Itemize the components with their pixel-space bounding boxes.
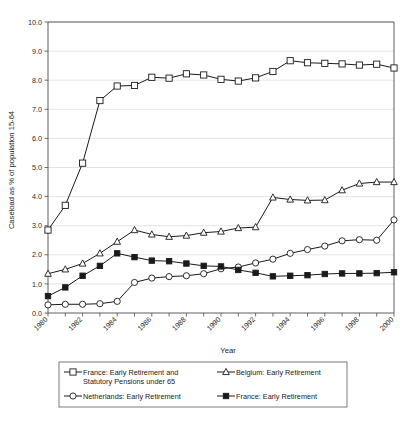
data-point-marker (391, 270, 396, 275)
data-point-marker (45, 302, 51, 308)
data-point-marker (223, 393, 228, 398)
data-point-marker (45, 227, 51, 233)
y-tick-label: 9.0 (32, 47, 42, 56)
data-point-marker (218, 76, 224, 82)
data-point-marker (357, 271, 362, 276)
legend-entry-france-er-statutory: France: Early Retirement and (83, 368, 178, 377)
data-point-marker (322, 243, 328, 249)
data-point-marker (304, 60, 310, 66)
y-tick-label: 6.0 (32, 134, 42, 143)
chart-legend: France: Early Retirement andStatutory Pe… (59, 362, 347, 407)
data-point-marker (80, 301, 86, 307)
legend-entry-france-er-statutory-line2: Statutory Pensions under 65 (83, 377, 175, 386)
data-point-marker (63, 285, 68, 290)
y-tick-label: 5.0 (32, 163, 42, 172)
data-point-marker (62, 301, 68, 307)
data-point-marker (132, 254, 137, 259)
data-point-marker (184, 261, 189, 266)
legend-entry-netherlands-er: Netherlands: Early Retirement (83, 392, 181, 401)
caption-strip (0, 417, 406, 425)
data-point-marker (149, 258, 154, 263)
data-point-marker (62, 202, 68, 208)
data-point-marker (253, 260, 259, 266)
legend-entry-belgium-er: Belgium: Early Retirement (236, 368, 321, 377)
data-point-marker (339, 271, 344, 276)
y-tick-label: 8.0 (32, 76, 42, 85)
data-point-marker (115, 251, 120, 256)
data-point-marker (391, 217, 397, 223)
data-point-marker (339, 238, 345, 244)
data-point-marker (201, 263, 206, 268)
data-point-marker (183, 273, 189, 279)
data-point-marker (201, 271, 207, 277)
data-point-marker (253, 75, 259, 81)
data-point-marker (287, 58, 293, 64)
data-point-marker (236, 267, 241, 272)
y-axis-title: Caseload as % of population 15-64 (7, 111, 16, 229)
data-point-marker (356, 237, 362, 243)
data-point-marker (80, 160, 86, 166)
y-tick-label: 4.0 (32, 192, 42, 201)
data-point-marker (97, 263, 102, 268)
data-point-marker (322, 60, 328, 66)
data-point-marker (166, 259, 171, 264)
legend-entry-france-er: France: Early Retirement (236, 392, 317, 401)
data-point-marker (149, 74, 155, 80)
data-point-marker (70, 369, 76, 375)
y-tick-label: 10.0 (28, 18, 42, 27)
data-point-marker (114, 298, 120, 304)
y-tick-label: 7.0 (32, 105, 42, 114)
data-point-marker (114, 83, 120, 89)
data-point-marker (45, 293, 50, 298)
y-tick-label: 3.0 (32, 221, 42, 230)
x-axis-title: Year (220, 346, 236, 355)
data-point-marker (166, 75, 172, 81)
y-tick-label: 1.0 (32, 280, 42, 289)
data-point-marker (374, 61, 380, 67)
data-point-marker (304, 246, 310, 252)
data-point-marker (131, 82, 137, 88)
data-point-marker (97, 301, 103, 307)
data-point-marker (322, 271, 327, 276)
data-point-marker (356, 62, 362, 68)
data-point-marker (288, 273, 293, 278)
data-point-marker (70, 393, 76, 399)
data-point-marker (270, 256, 276, 262)
data-point-marker (270, 274, 275, 279)
data-point-marker (201, 72, 207, 78)
caseload-line-chart: 0.01.02.03.04.05.06.07.08.09.010.0 19801… (0, 0, 406, 425)
data-point-marker (374, 270, 379, 275)
data-point-marker (305, 272, 310, 277)
y-tick-label: 2.0 (32, 250, 42, 259)
data-point-marker (149, 275, 155, 281)
data-point-marker (374, 237, 380, 243)
chart-figure: 0.01.02.03.04.05.06.07.08.09.010.0 19801… (0, 0, 406, 425)
data-point-marker (218, 264, 223, 269)
data-point-marker (270, 68, 276, 74)
data-point-marker (131, 279, 137, 285)
data-point-marker (235, 78, 241, 84)
data-point-marker (183, 71, 189, 77)
data-point-marker (97, 97, 103, 103)
data-point-marker (287, 250, 293, 256)
data-point-marker (253, 270, 258, 275)
data-point-marker (339, 61, 345, 67)
data-point-marker (80, 273, 85, 278)
data-point-marker (166, 274, 172, 280)
data-point-marker (391, 65, 397, 71)
